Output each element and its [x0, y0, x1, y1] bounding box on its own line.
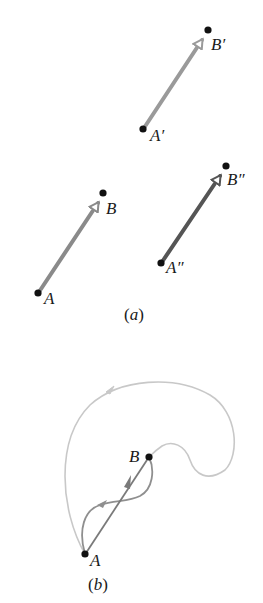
vector-arrow: [39, 203, 98, 292]
point-b: [99, 189, 106, 196]
label-a: A: [43, 289, 55, 308]
label-b-b: B: [129, 447, 140, 466]
point-b-double-prime: [222, 162, 229, 169]
vector-diagram: A′ B′ A B A″ B″ (a): [0, 0, 263, 603]
label-a-prime: A′: [149, 126, 164, 145]
vector-arrow: [162, 176, 220, 262]
label-a-double-prime: A″: [165, 258, 184, 277]
panel-a: A′ B′ A B A″ B″ (a): [34, 26, 245, 324]
caption-a: (a): [124, 305, 144, 324]
label-b-prime: B′: [211, 35, 225, 54]
panel-b: A B (b): [65, 382, 234, 594]
label-b: B: [106, 199, 117, 218]
caption-b: (b): [88, 575, 108, 594]
vector-arrow: [144, 40, 202, 128]
label-a-b: A: [89, 551, 101, 570]
vector-a-prime-b-prime: A′ B′: [139, 26, 225, 145]
loop-path: [65, 382, 234, 554]
vector-a-double-prime-b-double-prime: A″ B″: [157, 162, 245, 277]
label-b-double-prime: B″: [227, 170, 245, 189]
point-a-b: [81, 550, 88, 557]
straight-arrow-icon: [124, 475, 131, 489]
point-a-prime: [139, 125, 146, 132]
point-b-b: [145, 453, 152, 460]
point-a: [34, 289, 41, 296]
point-b-prime: [204, 26, 211, 33]
point-a-double-prime: [157, 259, 164, 266]
vector-a-b: A B: [34, 189, 117, 308]
